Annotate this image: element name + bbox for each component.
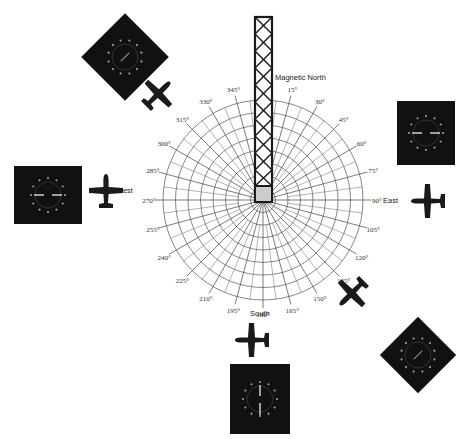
radial-line xyxy=(235,200,263,304)
radial-label: 300° xyxy=(158,140,172,148)
radial-label: 345° xyxy=(227,86,241,94)
minor-radial xyxy=(278,220,324,280)
minor-radial xyxy=(283,215,343,261)
radial-label: 165° xyxy=(286,307,300,315)
gauge-southeast xyxy=(380,317,456,393)
radial-label: 255° xyxy=(146,226,160,234)
radial-line xyxy=(263,200,291,304)
gauge-west xyxy=(14,166,82,224)
radial-label: 225° xyxy=(176,277,190,285)
radial-line xyxy=(263,200,317,294)
radial-line xyxy=(263,146,357,200)
radial-label: 195° xyxy=(227,307,241,315)
radial-line xyxy=(159,200,263,228)
magnetic-north-label: Magnetic North xyxy=(275,73,326,82)
airplane-icon-west xyxy=(89,174,123,208)
minor-radial xyxy=(184,215,244,261)
radial-label: 45° xyxy=(339,116,349,124)
vor-diagram: 0°15°30°45°60°75°90°105°120°135°150°165°… xyxy=(0,0,470,439)
east-label: East xyxy=(383,196,399,205)
radial-label: 210° xyxy=(199,295,213,303)
radial-label: 240° xyxy=(158,254,172,262)
gauge-east xyxy=(397,101,455,165)
minor-radial xyxy=(278,121,324,181)
radial-label: 120° xyxy=(355,254,369,262)
radial-label: 105° xyxy=(366,226,380,234)
minor-radial xyxy=(283,139,343,185)
radial-line xyxy=(159,172,263,200)
radial-label: 285° xyxy=(146,167,160,175)
tower-base xyxy=(255,186,272,202)
radial-line xyxy=(169,146,263,200)
radial-label: 15° xyxy=(288,86,298,94)
radial-label: 315° xyxy=(176,116,190,124)
radial-label: 30° xyxy=(315,98,325,106)
radial-label: 330° xyxy=(199,98,213,106)
radial-label: 90° xyxy=(372,197,382,205)
radial-label: 60° xyxy=(357,140,367,148)
station-tower xyxy=(255,17,272,202)
radial-label: 150° xyxy=(313,295,327,303)
radial-line xyxy=(209,200,263,294)
south-label: South xyxy=(250,309,270,318)
airplane-icon-southeast xyxy=(328,269,376,317)
radial-line xyxy=(263,200,357,254)
radial-line xyxy=(263,172,367,200)
radial-label: 75° xyxy=(368,167,378,175)
airplane-icon-south xyxy=(235,323,269,357)
minor-radial xyxy=(202,220,248,280)
minor-radial xyxy=(184,139,244,185)
minor-radial xyxy=(202,121,248,181)
gauge-south xyxy=(230,364,290,434)
airplane-icon-east xyxy=(411,184,445,218)
radial-line xyxy=(169,200,263,254)
radial-label: 270° xyxy=(142,197,156,205)
radial-line xyxy=(263,200,367,228)
